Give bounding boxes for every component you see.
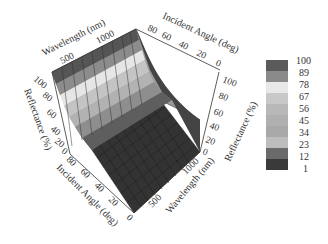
colorbar-label: 34 [299,127,309,138]
label-refl-right: Reflectance (%) [222,100,260,164]
tick-angle-top: 60 [160,30,173,43]
tick-refl-left: 100 [32,74,50,91]
colorbar-label: 78 [299,79,309,90]
colorbar-label: 56 [299,103,309,114]
colorbar-swatch [266,104,288,115]
colorbar-label: 89 [299,67,309,78]
colorbar-swatch [266,159,288,170]
colorbar-swatch [266,71,288,82]
tick-angle-bottom: 20 [107,194,121,208]
colorbar-swatch [266,148,288,159]
tick-angle-top: 0 [214,58,223,69]
tick-refl-left: 60 [45,107,59,121]
colorbar-swatch [266,60,288,71]
tick-angle-bottom: 0 [125,212,136,223]
colorbar-label: 67 [299,91,309,102]
tick-refl-left: 80 [41,90,55,104]
colorbar-label: 45 [299,115,309,126]
tick-refl-right: 20 [204,134,217,147]
tick-refl-right: 80 [217,90,230,103]
colorbar-swatch [266,115,288,126]
tick-angle-bottom: 60 [79,166,93,180]
colorbar-label: 1 [303,163,308,174]
colorbar-label: 12 [299,151,309,162]
colorbar-swatch [266,126,288,137]
tick-refl-right: 60 [212,106,225,119]
colorbar-swatch [266,82,288,93]
tick-refl-right: 100 [221,74,238,88]
colorbar-swatch [266,93,288,104]
tick-refl-right: 40 [208,120,221,133]
colorbar-label: 100 [296,55,311,66]
tick-angle-top: 80 [146,23,159,36]
tick-angle-bottom: 40 [93,180,107,194]
colorbar-label: 23 [299,139,309,150]
colorbar-swatch [266,137,288,148]
